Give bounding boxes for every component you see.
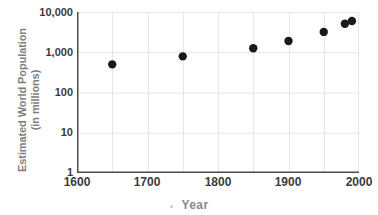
data-point: [179, 52, 187, 60]
population-scatter-chart: Estimated World Population (in millions)…: [0, 0, 378, 215]
x-tick-label-1700: 1700: [124, 176, 170, 188]
x-tick-label-1900: 1900: [265, 176, 311, 188]
data-point: [348, 17, 356, 25]
plot-svg: [77, 12, 359, 173]
x-tick-label-1600: 1600: [54, 176, 100, 188]
y-tick-label-100: 100: [0, 87, 73, 98]
x-axis-title-label: Year: [182, 198, 209, 212]
x-axis-title: Year: [0, 198, 378, 212]
data-point: [284, 37, 292, 45]
data-point-group: [108, 17, 356, 69]
x-tick-label-1800: 1800: [195, 176, 241, 188]
x-tick-label-2000: 2000: [336, 176, 378, 188]
y-tick-label-1000: 1,000: [0, 47, 73, 58]
data-point: [108, 60, 116, 68]
data-point: [320, 28, 328, 36]
y-tick-label-10: 10: [0, 127, 73, 138]
y-tick-label-10000: 10,000: [0, 7, 73, 18]
plot-area: [77, 12, 359, 173]
data-point: [249, 44, 257, 52]
stray-dot-artifact: [170, 205, 173, 208]
